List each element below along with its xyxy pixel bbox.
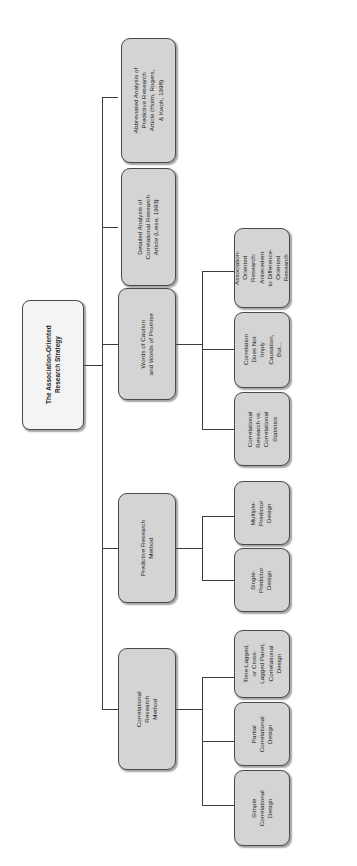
connector-spine-to-branch-predictive [102,548,118,549]
node-predictive-research-method[interactable]: Predictive ResearchMethod [118,493,176,603]
node-correlation-does-not-imply-causation-label: CorrelationDoes NotImplyCausation,But... [241,335,282,366]
node-correlational-research-vs-statistics[interactable]: CorrelationalResearch vs.CorrelationalSt… [234,392,290,466]
connector-words-to-antecedent [202,271,234,272]
node-partial-correlational-design-label: PartialCorrelationalDesign [250,716,275,752]
node-predictive-research-method-label: Predictive ResearchMethod [139,520,155,576]
node-root-label: The Association-OrientedResearch Strateg… [44,326,61,405]
connector-predictive-to-single [202,580,234,581]
node-correlational-research-method-label: CorrelationalResearchMethod [135,691,160,727]
connector-correlational-to-partial [202,741,234,742]
connector-correlational-to-simple [202,805,234,806]
connector-spine-to-branch-words [102,344,118,345]
node-single-predictor-design-label: Single-PredictorDesign [250,567,275,592]
connector-words-to-causation [202,349,234,350]
connector-predictive-to-multiple [202,516,234,517]
node-simple-correlational-design[interactable]: SimpleCorrelationalDesign [234,770,290,846]
node-multiple-predictor-design-label: Multiple-PredictorDesign [250,500,275,525]
connector-words-to-corrstats [202,429,234,430]
node-single-predictor-design[interactable]: Single-PredictorDesign [234,548,290,612]
node-words-of-caution-and-promise-label: Words of Cautionand Words of Promise [139,313,155,375]
node-time-lagged-correlational-design-label: Time-Lagged,or Cross-Lagged Panel,Correl… [241,644,282,685]
connector-correlational-to-timelagged [202,677,234,678]
connector-words-spine [202,271,203,429]
connector-spine-to-branch-detailed [102,227,118,228]
connector-predictive-out [176,548,202,549]
node-correlational-research-method[interactable]: CorrelationalResearchMethod [118,648,176,770]
node-correlational-research-vs-statistics-label: CorrelationalResearch vs.CorrelationalSt… [246,411,279,448]
flowchart-canvas: The Association-OrientedResearch Strateg… [0,0,357,866]
connector-root-stub [84,365,102,366]
connector-main-spine [102,97,103,709]
connector-spine-to-branch-abbreviated [102,97,118,98]
node-abbreviated-analysis-predictive-article-label: Abbreviated Analysis ofPredictive Resear… [132,68,165,133]
connector-words-out [176,344,202,345]
node-partial-correlational-design[interactable]: PartialCorrelationalDesign [234,702,290,766]
node-abbreviated-analysis-predictive-article[interactable]: Abbreviated Analysis ofPredictive Resear… [121,38,176,163]
node-association-oriented-research-antecedent-label: Association-OrientedResearch:Antecedentt… [234,249,290,287]
node-detailed-analysis-correlational-article[interactable]: Detailed Analysis ofCorrelational Resear… [121,168,176,286]
node-association-oriented-research-antecedent[interactable]: Association-OrientedResearch:Antecedentt… [234,228,290,308]
node-time-lagged-correlational-design[interactable]: Time-Lagged,or Cross-Lagged Panel,Correl… [234,630,290,698]
node-detailed-analysis-correlational-article-label: Detailed Analysis ofCorrelational Resear… [136,195,161,259]
connector-predictive-spine [202,516,203,580]
node-correlation-does-not-imply-causation[interactable]: CorrelationDoes NotImplyCausation,But... [234,312,290,388]
node-multiple-predictor-design[interactable]: Multiple-PredictorDesign [234,481,290,545]
node-simple-correlational-design-label: SimpleCorrelationalDesign [250,790,275,826]
node-words-of-caution-and-promise[interactable]: Words of Cautionand Words of Promise [118,288,176,400]
connector-spine-to-branch-correlational [102,709,118,710]
connector-correlational-out [176,709,202,710]
node-root-association-oriented-research-strategy[interactable]: The Association-OrientedResearch Strateg… [22,300,84,430]
